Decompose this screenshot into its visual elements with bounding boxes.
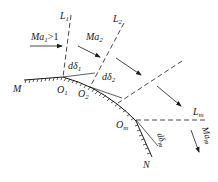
tangent-lines — [63, 73, 158, 146]
arrow-ma2 — [78, 46, 100, 57]
arrow-mam — [191, 130, 199, 152]
label-L2: L2 — [112, 13, 123, 26]
label-M: M — [12, 83, 22, 94]
label-ma1: Ma1>1 — [30, 31, 58, 44]
arrow-3 — [116, 58, 141, 75]
mach-line-3 — [118, 61, 182, 103]
expansion-wave-diagram: L1 L2 Lm Ma1>1 Ma2 Mam M O1 O2 Om N dδ1 … — [0, 0, 218, 182]
label-d-delta-m: dδm — [153, 132, 169, 149]
label-N: N — [142, 159, 151, 170]
label-Lm: Lm — [192, 106, 204, 119]
label-d-delta-2: dδ2 — [102, 71, 116, 84]
label-d-delta-1: dδ1 — [68, 60, 81, 73]
label-mam: Mam — [198, 125, 215, 146]
label-ma2: Ma2 — [85, 31, 103, 44]
flow-arrows — [30, 46, 199, 152]
wall-surface — [24, 77, 152, 157]
label-O1: O1 — [57, 84, 68, 97]
arrow-4 — [157, 86, 181, 106]
mach-lines — [63, 15, 206, 120]
label-O2: O2 — [78, 88, 89, 101]
label-Om: Om — [116, 119, 128, 132]
label-L1: L1 — [59, 10, 69, 23]
